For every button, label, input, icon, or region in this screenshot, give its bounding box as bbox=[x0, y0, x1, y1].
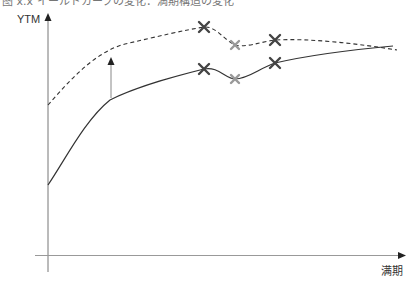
x-marker-icon bbox=[270, 58, 280, 68]
dashed-yield-curve bbox=[48, 27, 397, 105]
solid-curve-markers bbox=[199, 58, 280, 83]
y-axis-arrow-icon bbox=[45, 13, 52, 21]
axes bbox=[35, 13, 406, 272]
yield-curve-figure: 图 x.x イールドカーブの変化：満期構造の変化 YTM 满期 bbox=[0, 0, 418, 287]
dashed-curve-markers bbox=[199, 22, 280, 49]
shift-up-arrow-icon bbox=[108, 57, 115, 98]
x-axis-arrow-icon bbox=[398, 252, 406, 259]
chart-canvas bbox=[0, 0, 418, 287]
solid-yield-curve bbox=[48, 46, 393, 185]
x-marker-icon bbox=[231, 41, 239, 49]
